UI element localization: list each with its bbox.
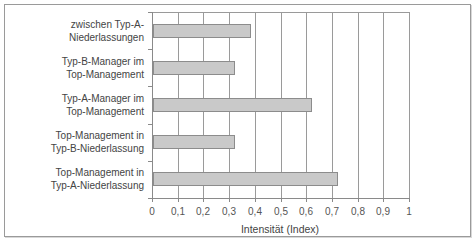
x-tick	[306, 198, 307, 202]
category-label-line: Niederlassungen	[0, 31, 144, 44]
x-tick-label: 0,8	[351, 206, 365, 217]
y-tick	[148, 198, 152, 199]
x-tick-label: 0,5	[274, 206, 288, 217]
x-tick	[229, 198, 230, 202]
x-tick	[281, 198, 282, 202]
y-tick	[148, 12, 152, 13]
category-label: Top-Management inTyp-A-Niederlassung	[0, 166, 144, 192]
bar	[153, 61, 235, 75]
category-label-line: Top-Management	[0, 68, 144, 81]
x-tick	[332, 198, 333, 202]
x-tick	[383, 198, 384, 202]
x-tick-label: 0,6	[299, 206, 313, 217]
x-tick	[152, 198, 153, 202]
category-label-line: Top-Management in	[0, 166, 144, 179]
x-tick	[409, 198, 410, 202]
y-tick	[148, 161, 152, 162]
x-tick-label: 0,9	[376, 206, 390, 217]
bar	[153, 135, 235, 149]
category-label-line: zwischen Typ-A-	[0, 18, 144, 31]
category-label: Typ-A-Manager imTop-Management	[0, 92, 144, 118]
gridline	[358, 12, 359, 198]
category-label-line: Top-Management	[0, 105, 144, 118]
category-label-line: Typ-A-Niederlassung	[0, 179, 144, 192]
gridline	[409, 12, 410, 198]
x-tick-label: 0,4	[248, 206, 262, 217]
gridline	[383, 12, 384, 198]
x-tick-label: 0,2	[196, 206, 210, 217]
y-tick	[148, 124, 152, 125]
category-label-line: Typ-B-Niederlassung	[0, 142, 144, 155]
x-tick-label: 0	[149, 206, 155, 217]
x-tick	[178, 198, 179, 202]
x-tick-label: 0,3	[222, 206, 236, 217]
x-tick	[203, 198, 204, 202]
x-tick-label: 0,1	[171, 206, 185, 217]
x-tick-label: 0,7	[325, 206, 339, 217]
category-label: Typ-B-Manager imTop-Management	[0, 55, 144, 81]
bar	[153, 172, 338, 186]
bar	[153, 98, 312, 112]
y-tick	[148, 49, 152, 50]
plot-area	[152, 12, 409, 198]
y-tick	[148, 86, 152, 87]
bar	[153, 24, 251, 38]
x-tick	[255, 198, 256, 202]
category-label: zwischen Typ-A-Niederlassungen	[0, 18, 144, 44]
x-axis-title: Intensität (Index)	[241, 223, 319, 235]
category-label-line: Typ-B-Manager im	[0, 55, 144, 68]
x-tick	[358, 198, 359, 202]
category-label: Top-Management inTyp-B-Niederlassung	[0, 129, 144, 155]
category-label-line: Top-Management in	[0, 129, 144, 142]
x-tick-label: 1	[406, 206, 412, 217]
category-label-line: Typ-A-Manager im	[0, 92, 144, 105]
gridline	[332, 12, 333, 198]
